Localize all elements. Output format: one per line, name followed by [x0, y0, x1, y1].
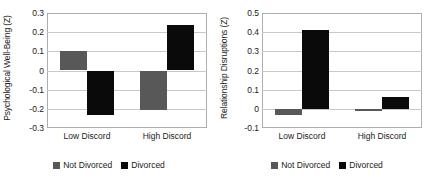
y-axis-tick-label: 0: [254, 104, 259, 114]
y-axis-title: Psychological Well-Being (Z): [0, 4, 15, 132]
gridline: [47, 109, 207, 110]
y-axis-tick-label: -0.2: [29, 104, 44, 114]
bar: [382, 97, 409, 109]
zero-line: [47, 71, 207, 72]
y-axis-tick-label: 0.3: [247, 46, 259, 56]
x-axis-tick-label: Low Discord: [64, 131, 111, 141]
y-axis-tick-label: 0.3: [32, 8, 44, 18]
y-axis-tick-label: 0.1: [32, 46, 44, 56]
x-axis-tick-label: High Discord: [143, 131, 192, 141]
legend: Not Divorced Divorced: [218, 160, 436, 170]
gridline: [262, 90, 422, 91]
bar: [302, 30, 329, 109]
plot-area: 0.50.40.30.20.10-0.1Low DiscordHigh Disc…: [262, 13, 422, 128]
y-axis-tick-label: 0: [39, 66, 44, 76]
legend-item-not-divorced: Not Divorced: [271, 160, 330, 170]
legend-swatch-icon: [339, 162, 346, 169]
legend: Not Divorced Divorced: [0, 160, 218, 170]
legend-label: Not Divorced: [63, 160, 112, 170]
y-axis-tick-label: 0.4: [247, 27, 259, 37]
gridline: [262, 71, 422, 72]
gridline: [47, 90, 207, 91]
plot-area: 0.30.20.10-0.1-0.2-0.3Low DiscordHigh Di…: [47, 13, 207, 128]
y-axis-tick-label: -0.3: [29, 123, 44, 133]
y-axis-tick-label: 0.1: [247, 85, 259, 95]
bar: [355, 109, 382, 111]
legend-label: Divorced: [131, 160, 165, 170]
chart-panel-relationship-disruptions: Relationship Disruptions (Z) 0.50.40.30.…: [218, 0, 436, 180]
x-axis-tick-label: Low Discord: [279, 131, 326, 141]
bar: [167, 25, 194, 70]
gridline: [262, 32, 422, 33]
y-axis-tick-label: 0.2: [247, 66, 259, 76]
figure: Psychological Well-Being (Z) 0.30.20.10-…: [0, 0, 437, 180]
legend-swatch-icon: [53, 162, 60, 169]
x-axis-tick-label: High Discord: [358, 131, 407, 141]
bar: [275, 109, 302, 115]
legend-swatch-icon: [121, 162, 128, 169]
legend-item-not-divorced: Not Divorced: [53, 160, 112, 170]
chart-panel-psychological-well-being: Psychological Well-Being (Z) 0.30.20.10-…: [0, 0, 218, 180]
y-axis-title: Relationship Disruptions (Z): [216, 4, 232, 132]
legend-label: Divorced: [349, 160, 383, 170]
legend-label: Not Divorced: [281, 160, 330, 170]
y-axis-tick-label: 0.5: [247, 8, 259, 18]
y-axis-tick-label: -0.1: [244, 123, 259, 133]
y-axis-tick-label: 0.2: [32, 27, 44, 37]
gridline: [262, 51, 422, 52]
bar: [87, 71, 114, 115]
legend-swatch-icon: [271, 162, 278, 169]
legend-item-divorced: Divorced: [339, 160, 383, 170]
bar: [60, 51, 87, 70]
legend-item-divorced: Divorced: [121, 160, 165, 170]
bar: [140, 71, 167, 110]
y-axis-tick-label: -0.1: [29, 85, 44, 95]
